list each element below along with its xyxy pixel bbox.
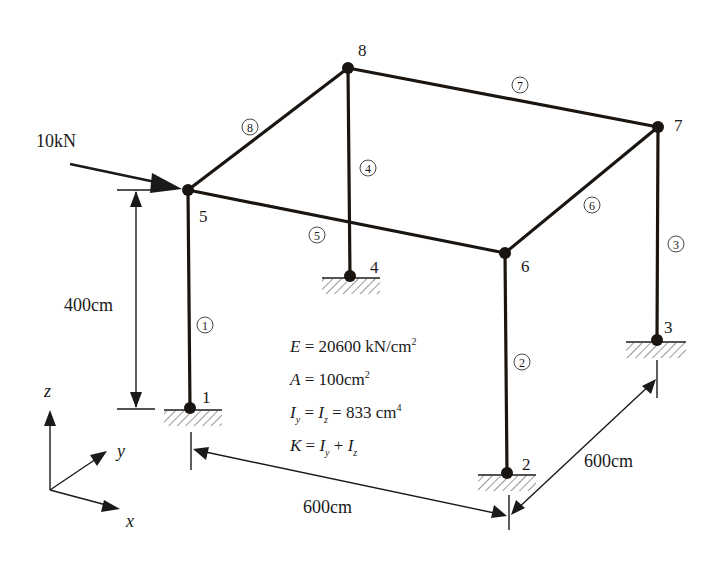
svg-text:2: 2 — [519, 356, 525, 370]
node-label-5: 5 — [199, 207, 208, 226]
svg-text:4: 4 — [365, 162, 371, 176]
member-label-3: 3 — [668, 236, 684, 252]
width-dimension-label: 600cm — [303, 497, 352, 517]
property-I: Iy = Iz = 833 cm4 — [289, 402, 401, 425]
node-label-6: 6 — [521, 257, 530, 276]
svg-text:8: 8 — [247, 121, 253, 135]
member-8 — [188, 68, 348, 190]
svg-text:1: 1 — [202, 319, 208, 333]
property-E: E = 20600 kN/cm2 — [289, 336, 417, 356]
svg-text:7: 7 — [517, 79, 523, 93]
depth-dimension — [511, 360, 657, 515]
member-label-8: 8 — [242, 119, 258, 135]
member-7 — [348, 68, 658, 127]
depth-dimension-label: 600cm — [584, 451, 633, 471]
node-7 — [652, 121, 664, 133]
node-label-1: 1 — [202, 388, 211, 407]
node-1 — [184, 402, 196, 414]
node-label-3: 3 — [664, 318, 673, 337]
member-3 — [657, 127, 658, 340]
node-4 — [344, 270, 356, 282]
property-K: K = Iy + Iz — [289, 436, 357, 458]
member-4 — [348, 68, 350, 276]
axis-label-z: z — [43, 381, 51, 401]
axis-label-x: x — [125, 511, 134, 531]
node-label-4: 4 — [370, 258, 379, 277]
axis-label-y: y — [115, 441, 125, 461]
member-6 — [505, 127, 658, 253]
member-label-2: 2 — [514, 354, 530, 370]
node-label-2: 2 — [522, 455, 531, 474]
svg-text:3: 3 — [673, 238, 679, 252]
member-2 — [505, 253, 507, 473]
load-label: 10kN — [36, 131, 76, 151]
height-dimension — [117, 190, 160, 409]
node-3 — [651, 334, 663, 346]
node-5 — [182, 184, 194, 196]
node-2 — [501, 467, 513, 479]
height-dimension-label: 400cm — [64, 295, 113, 315]
node-8 — [342, 62, 354, 74]
member-label-6: 6 — [584, 197, 600, 213]
space-frame-diagram: 1 2 3 4 5 6 7 8 1 2 3 4 5 6 7 8 10kN — [0, 0, 727, 565]
load-arrow — [70, 164, 182, 193]
material-properties: E = 20600 kN/cm2 A = 100cm2 Iy = Iz = 83… — [289, 336, 417, 458]
member-label-4: 4 — [360, 160, 376, 176]
member-label-1: 1 — [197, 317, 213, 333]
node-6 — [499, 247, 511, 259]
member-label-7: 7 — [512, 77, 528, 93]
coordinate-axes — [44, 410, 120, 512]
member-label-5: 5 — [309, 227, 325, 243]
svg-text:6: 6 — [589, 199, 595, 213]
svg-text:5: 5 — [314, 229, 320, 243]
property-A: A = 100cm2 — [289, 369, 370, 389]
member-1 — [188, 190, 190, 408]
node-label-8: 8 — [358, 41, 367, 60]
member-5 — [188, 190, 505, 253]
node-label-7: 7 — [674, 116, 683, 135]
